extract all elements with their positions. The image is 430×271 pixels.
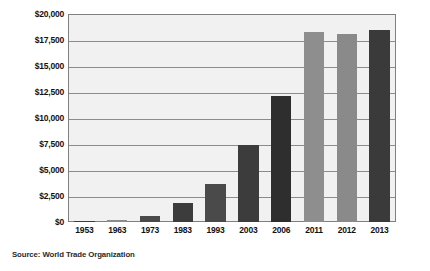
x-tick-label: 1953	[68, 225, 101, 235]
y-tick-label: $12,500	[2, 87, 64, 97]
bar	[74, 221, 94, 222]
bar	[140, 216, 160, 222]
bar	[173, 203, 193, 222]
bar	[205, 184, 225, 222]
y-tick-label: $20,000	[2, 9, 64, 19]
x-tick-label: 1963	[101, 225, 134, 235]
x-axis: 1953196319731983199320032006201120122013	[68, 225, 396, 241]
y-tick-label: $7,500	[2, 139, 64, 149]
bar	[304, 32, 324, 222]
y-tick-label: $0	[2, 217, 64, 227]
x-tick-label: 2006	[265, 225, 298, 235]
y-tick-label: $17,500	[2, 35, 64, 45]
bar	[337, 34, 357, 222]
bar-chart: $0$2,500$5,000$7,500$10,000$12,500$15,00…	[0, 0, 430, 271]
source-note: Source: World Trade Organization	[12, 250, 135, 259]
y-tick-label: $2,500	[2, 191, 64, 201]
bars-layer	[68, 14, 396, 222]
x-tick-label: 2012	[330, 225, 363, 235]
x-tick-label: 2013	[363, 225, 396, 235]
y-tick-label: $5,000	[2, 165, 64, 175]
y-tick-label: $10,000	[2, 113, 64, 123]
x-tick-label: 1993	[199, 225, 232, 235]
y-tick-label: $15,000	[2, 61, 64, 71]
x-tick-label: 1983	[166, 225, 199, 235]
bar	[271, 96, 291, 222]
bar	[107, 220, 127, 222]
bar	[238, 145, 258, 222]
x-tick-label: 2003	[232, 225, 265, 235]
bar	[369, 30, 389, 222]
x-tick-label: 2011	[298, 225, 331, 235]
x-tick-label: 1973	[134, 225, 167, 235]
y-axis: $0$2,500$5,000$7,500$10,000$12,500$15,00…	[0, 0, 64, 240]
